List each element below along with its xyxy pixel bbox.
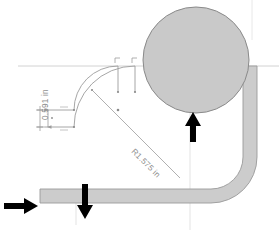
outer-bend-arc: [74, 66, 135, 127]
aux-dot-left: [51, 117, 53, 119]
tangent-dot-outer-top: [134, 91, 136, 93]
tick-outer-top: [132, 58, 137, 63]
roller-circle: [143, 7, 249, 113]
flange-dimension: 0.591 in: [36, 89, 50, 131]
inner-bend-arc: [74, 66, 118, 110]
radius-label: R1.575 in: [130, 147, 163, 180]
flange-length-label: 0.591 in: [41, 89, 50, 120]
bend-arcs: [45, 66, 135, 127]
bend-center-dot: [117, 109, 120, 112]
top-tick-marks: [115, 58, 137, 63]
tangent-dot-inner-left: [73, 109, 75, 111]
drawing-svg: R1.575 in 0.591 in: [0, 0, 279, 230]
arrow-right-icon: [4, 198, 38, 214]
roller-circle-shape: [143, 7, 249, 113]
tangent-point-markers: [51, 89, 136, 128]
technical-drawing-canvas: R1.575 in 0.591 in: [0, 0, 279, 230]
tangent-dot-inner-top: [117, 91, 119, 93]
tangent-dot-outer-left: [73, 126, 75, 128]
arrow-up-icon: [185, 112, 201, 142]
tick-inner-top: [115, 58, 120, 63]
